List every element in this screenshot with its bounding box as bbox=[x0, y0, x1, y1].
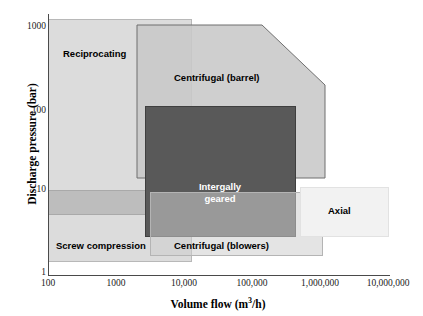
y-axis-line bbox=[48, 14, 49, 276]
x-axis-title-post: /h) bbox=[252, 298, 265, 310]
x-tick-10000000: 10,000,000 bbox=[353, 279, 423, 289]
y-tick-100: 100 bbox=[4, 106, 46, 116]
y-axis-ticks: 1000 100 10 1 bbox=[0, 0, 46, 316]
label-reciprocating: Reciprocating bbox=[63, 49, 126, 60]
x-tick-100000: 100,000 bbox=[217, 279, 287, 289]
chart-figure: 1000 100 10 1 Discharge pressure (bar) R… bbox=[0, 0, 423, 316]
x-tick-1000: 1000 bbox=[81, 279, 151, 289]
label-centrifugal-blowers: Centrifugal (blowers) bbox=[174, 241, 269, 252]
y-tick-1000: 1000 bbox=[4, 22, 46, 32]
y-axis-title: Discharge pressure (bar) bbox=[26, 24, 38, 264]
x-tick-10000: 10,000 bbox=[149, 279, 219, 289]
x-axis-line bbox=[48, 275, 390, 276]
x-axis-title: Volume flow (m3/h) bbox=[48, 296, 388, 310]
x-axis-title-pre: Volume flow (m bbox=[171, 298, 249, 310]
label-intergally-geared-line2: geared bbox=[180, 194, 260, 205]
x-tick-100: 100 bbox=[13, 279, 83, 289]
y-tick-10: 10 bbox=[4, 185, 46, 195]
label-screw-compression: Screw compression bbox=[56, 241, 146, 252]
label-intergally-geared-line1: Intergally bbox=[180, 182, 260, 193]
label-centrifugal-barrel: Centrifugal (barrel) bbox=[174, 73, 260, 84]
y-tick-1: 1 bbox=[4, 268, 46, 278]
x-tick-1000000: 1,000,000 bbox=[285, 279, 355, 289]
label-axial: Axial bbox=[328, 206, 351, 217]
plot-area: Reciprocating Centrifugal (barrel) Inter… bbox=[48, 14, 390, 276]
